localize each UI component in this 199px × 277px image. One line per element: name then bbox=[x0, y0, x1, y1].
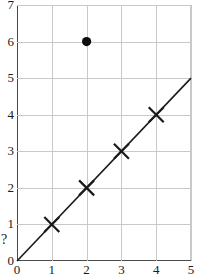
y-axis-tick-label: 1 bbox=[0, 217, 14, 230]
gridline-vertical bbox=[121, 5, 122, 261]
plot-area bbox=[17, 5, 191, 261]
gridline-horizontal bbox=[17, 224, 191, 225]
y-axis-tick-label: 3 bbox=[0, 144, 14, 157]
gridline-horizontal bbox=[17, 188, 191, 189]
x-axis-tick-label: 0 bbox=[9, 263, 25, 276]
gridline-vertical bbox=[52, 5, 53, 261]
x-axis-tick-label: 1 bbox=[44, 263, 60, 276]
gridline-horizontal bbox=[17, 115, 191, 116]
gridline-horizontal bbox=[17, 151, 191, 152]
gridline-horizontal bbox=[17, 78, 191, 79]
gridline-vertical bbox=[156, 5, 157, 261]
x-axis-tick-label: 5 bbox=[183, 263, 199, 276]
y-axis-line bbox=[17, 5, 18, 261]
x-axis-tick-label: 4 bbox=[148, 263, 164, 276]
gridline-horizontal bbox=[17, 5, 191, 6]
y-axis-tick-label: 7 bbox=[0, 0, 14, 11]
gridline-horizontal bbox=[17, 42, 191, 43]
x-axis-line bbox=[17, 260, 191, 261]
x-axis-tick-label: 2 bbox=[79, 263, 95, 276]
gridline-vertical bbox=[191, 5, 192, 261]
gridline-vertical bbox=[87, 5, 88, 261]
y-axis-tick-label: 6 bbox=[0, 35, 14, 48]
x-axis-tick-label: 3 bbox=[113, 263, 129, 276]
y-axis-tick-label: 2 bbox=[0, 181, 14, 194]
y-axis-tick-label: 4 bbox=[0, 108, 14, 121]
y-axis-question-annotation: ? bbox=[1, 233, 7, 247]
y-axis-tick-label: 5 bbox=[0, 71, 14, 84]
